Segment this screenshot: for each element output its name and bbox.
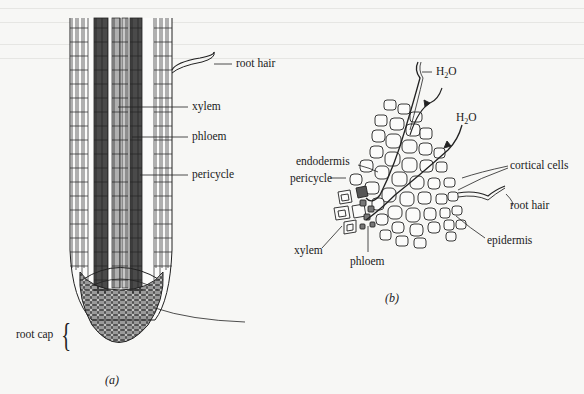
label-cortical-cells: cortical cells [510, 160, 568, 172]
root-cross-section [322, 62, 513, 252]
label-phloem-a: phloem [192, 131, 227, 143]
root-hair [458, 186, 505, 196]
label-root-hair-a: root hair [236, 58, 275, 70]
label-phloem-b: phloem [350, 256, 385, 268]
label-root-hair-b: root hair [510, 200, 549, 212]
caption-b: (b) [385, 291, 399, 306]
root-hair [172, 52, 214, 70]
label-epidermis: epidermis [487, 235, 532, 247]
label-h2o-top: H2O [436, 66, 457, 80]
label-endodermis: endodermis [296, 156, 350, 168]
label-xylem-a: xylem [192, 101, 221, 113]
root-diagram [0, 0, 584, 394]
caption-a: (a) [105, 373, 119, 388]
brace-icon: { [61, 318, 71, 352]
label-xylem-b: xylem [294, 245, 323, 257]
label-pericycle-a: pericycle [192, 169, 234, 181]
label-root-cap: root cap [16, 329, 53, 341]
label-pericycle-b: pericycle [290, 173, 332, 185]
label-h2o-mid: H2O [456, 112, 477, 126]
